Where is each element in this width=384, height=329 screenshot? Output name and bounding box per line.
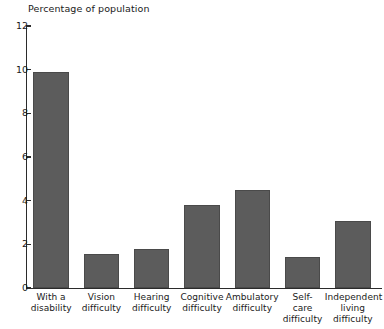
chart-title: Percentage of population [28, 3, 150, 15]
x-tick-label: With adisability [23, 292, 79, 314]
x-tick-label-line: Cognitive [174, 292, 230, 303]
y-tick-label: 2 [6, 239, 28, 249]
y-tick-label: 8 [6, 108, 28, 118]
x-tick-label-line: difficulty [224, 303, 280, 314]
x-tick-label: Independentlivingdifficulty [325, 292, 381, 326]
bar [84, 254, 119, 288]
x-tick-label-line: difficulty [274, 314, 330, 325]
x-tick-label-line: difficulty [73, 303, 129, 314]
bar [33, 72, 68, 288]
plot-area [26, 26, 378, 288]
x-tick-label-line: disability [23, 303, 79, 314]
bar-chart: Percentage of population 024681012 With … [0, 0, 384, 329]
x-tick-label-line: Self- [274, 292, 330, 303]
x-tick-label-line: Independent [325, 292, 381, 303]
y-tick-label: 10 [6, 65, 28, 75]
x-tick-label-line: difficulty [325, 314, 381, 325]
x-tick-label-line: Hearing [124, 292, 180, 303]
x-tick-label-line: Ambulatory [224, 292, 280, 303]
x-tick-label-line: Vision [73, 292, 129, 303]
x-tick-label: Hearingdifficulty [124, 292, 180, 314]
y-tick-label: 6 [6, 152, 28, 162]
bar [335, 221, 370, 288]
bar [184, 205, 219, 288]
x-tick-label-line: difficulty [174, 303, 230, 314]
x-tick-label: Ambulatorydifficulty [224, 292, 280, 314]
x-tick-label-line: care [274, 303, 330, 314]
bar [235, 190, 270, 288]
x-tick-label: Cognitivedifficulty [174, 292, 230, 314]
x-axis-line [26, 288, 382, 289]
x-tick-label: Visiondifficulty [73, 292, 129, 314]
x-tick-label: Self-caredifficulty [274, 292, 330, 326]
x-tick-label-line: With a [23, 292, 79, 303]
x-tick-label-line: difficulty [124, 303, 180, 314]
y-tick-label: 4 [6, 196, 28, 206]
x-tick-label-line: living [325, 303, 381, 314]
bar [134, 249, 169, 288]
y-tick-label: 12 [6, 21, 28, 31]
bar [285, 257, 320, 288]
